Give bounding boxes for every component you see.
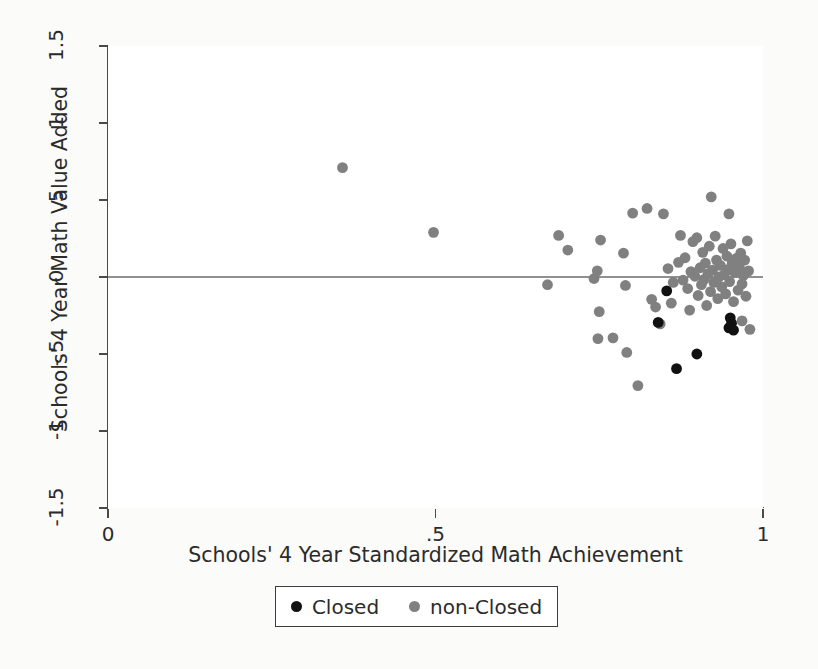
y-tick-label: .5: [44, 169, 68, 229]
y-tick-label: 0: [44, 246, 68, 306]
y-tick-mark: [99, 430, 108, 431]
y-tick-label: -.5: [44, 323, 68, 383]
y-tick-label: -1.5: [44, 477, 68, 537]
plot-area: [108, 46, 763, 508]
legend-entry-closed[interactable]: Closed: [291, 595, 379, 619]
y-tick-mark: [99, 122, 108, 123]
x-axis-title: Schools' 4 Year Standardized Math Achiev…: [108, 543, 763, 567]
legend-label: Closed: [312, 595, 379, 619]
legend-marker-dot-icon: [291, 601, 302, 612]
legend-box: Closednon-Closed: [275, 586, 558, 627]
y-tick-mark: [99, 276, 108, 277]
scatter-plot-canvas: [108, 46, 763, 508]
y-tick-label: 1: [44, 92, 68, 152]
y-tick-label: 1.5: [44, 15, 68, 75]
legend-entry-non-closed[interactable]: non-Closed: [409, 595, 542, 619]
figure-container: Schools' 4 Year Math Value Added 1.51.50…: [0, 0, 818, 669]
x-tick-mark: [762, 509, 763, 518]
y-tick-mark: [99, 199, 108, 200]
y-tick-mark: [99, 45, 108, 46]
legend-marker-dot-icon: [409, 601, 420, 612]
y-tick-label: -1: [44, 400, 68, 460]
legend-label: non-Closed: [430, 595, 542, 619]
x-tick-mark: [435, 509, 436, 518]
x-tick-mark: [107, 509, 108, 518]
y-tick-mark: [99, 353, 108, 354]
